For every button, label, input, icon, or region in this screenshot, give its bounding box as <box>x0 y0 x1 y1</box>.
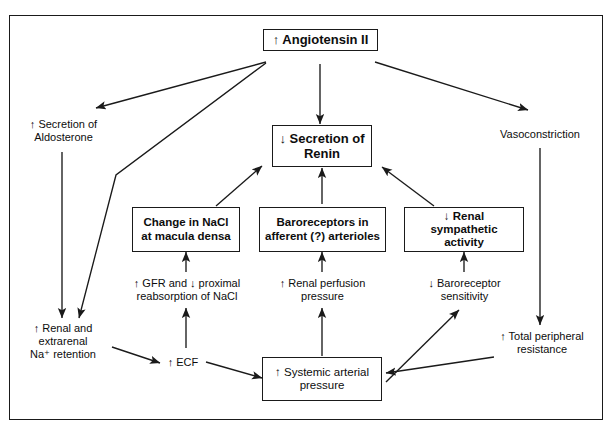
node-baroreceptor-sensitivity-line2: sensitivity <box>441 290 489 302</box>
node-secretion-of-aldosterone-line1: ↑ Secretion of <box>30 118 97 130</box>
node-tpr-line2: resistance <box>517 343 567 355</box>
node-ecf-label: ↑ ECF <box>168 356 199 368</box>
diagram-canvas: ↑ Angiotensin II ↓ Secretion of Renin ↑ … <box>0 0 612 435</box>
node-change-in-nacl-macula-densa[interactable]: Change in NaCl at macula densa <box>132 207 240 252</box>
node-renal-perfusion-line2: pressure <box>301 290 344 302</box>
node-macula-densa-line2: at macula densa <box>141 230 230 242</box>
node-angiotensin-ii-label: ↑ Angiotensin II <box>268 32 373 47</box>
node-secretion-of-renin[interactable]: ↓ Secretion of Renin <box>272 125 372 167</box>
node-secretion-of-renin-line1: ↓ Secretion of <box>279 131 364 146</box>
node-systemic-arterial-pressure[interactable]: ↑ Systemic arterial pressure <box>262 357 382 401</box>
node-na-retention[interactable]: ↑ Renal and extrarenal Na⁺ retention <box>14 322 112 360</box>
node-renal-perfusion-pressure[interactable]: ↑ Renal perfusion pressure <box>269 277 376 303</box>
node-secretion-of-aldosterone-line2: Aldosterone <box>34 131 93 143</box>
node-na-retention-line3: Na⁺ retention <box>30 348 96 360</box>
node-systemic-pressure-line2: pressure <box>300 379 345 391</box>
node-baroreceptors-line2: afferent (?) arterioles <box>265 230 380 242</box>
node-ecf[interactable]: ↑ ECF <box>160 356 206 369</box>
node-na-retention-line2: extrarenal <box>39 335 88 347</box>
node-vasoconstriction-label: Vasoconstriction <box>500 128 580 140</box>
node-renal-perfusion-line1: ↑ Renal perfusion <box>280 277 366 289</box>
node-baroreceptor-sensitivity[interactable]: ↓ Baroreceptor sensitivity <box>412 277 517 303</box>
node-gfr-line1: ↑ GFR and ↓ proximal <box>134 277 240 289</box>
node-renal-sympathetic-line1: ↓ Renal sympathetic <box>430 210 497 235</box>
node-macula-densa-line1: Change in NaCl <box>144 216 229 228</box>
node-renal-sympathetic-line2: activity <box>444 236 484 248</box>
node-angiotensin-ii[interactable]: ↑ Angiotensin II <box>263 29 378 51</box>
node-na-retention-line1: ↑ Renal and <box>34 322 93 334</box>
node-renal-sympathetic-activity[interactable]: ↓ Renal sympathetic activity <box>404 207 524 252</box>
node-vasoconstriction[interactable]: Vasoconstriction <box>494 128 586 141</box>
node-systemic-pressure-line1: ↑ Systemic arterial <box>275 366 369 378</box>
node-baroreceptors-afferent-arterioles[interactable]: Baroreceptors in afferent (?) arterioles <box>259 207 386 252</box>
node-gfr-proximal-reabsorption[interactable]: ↑ GFR and ↓ proximal reabsorption of NaC… <box>112 277 262 303</box>
node-gfr-line2: reabsorption of NaCl <box>137 290 238 302</box>
node-secretion-of-aldosterone[interactable]: ↑ Secretion of Aldosterone <box>16 118 111 144</box>
node-tpr-line1: ↑ Total peripheral <box>500 330 584 342</box>
node-total-peripheral-resistance[interactable]: ↑ Total peripheral resistance <box>487 330 597 356</box>
node-baroreceptors-line1: Baroreceptors in <box>276 216 368 228</box>
node-secretion-of-renin-line2: Renin <box>304 146 340 161</box>
node-baroreceptor-sensitivity-line1: ↓ Baroreceptor <box>428 277 500 289</box>
